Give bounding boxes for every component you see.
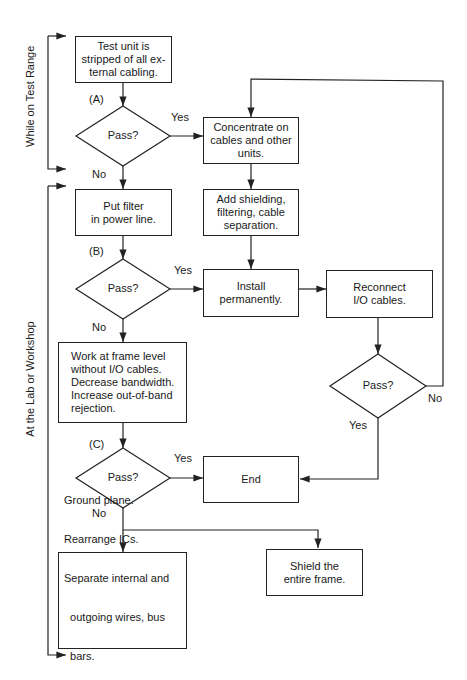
stage-label-c: (C) xyxy=(89,438,104,450)
decision-b-text: Pass? xyxy=(93,282,153,294)
decision-c-text: Pass? xyxy=(93,471,153,483)
edge-label-b-no: No xyxy=(92,321,106,333)
edge-label-io-yes: Yes xyxy=(349,419,367,431)
stage-label-a: (A) xyxy=(89,93,104,105)
decision-a-text: Pass? xyxy=(93,129,153,141)
side-label-test-range: While on Test Range xyxy=(24,47,36,147)
edge-label-b-yes: Yes xyxy=(174,264,192,276)
edge-label-c-no: No xyxy=(92,507,106,519)
stage-label-b: (B) xyxy=(89,245,104,257)
edge-label-c-yes: Yes xyxy=(174,452,192,464)
box-frame-level: Work at frame level without I/O cables. … xyxy=(58,342,187,423)
box-concentrate-cables: Concentrate on cables and other units. xyxy=(203,117,299,164)
side-label-lab: At the Lab or Workshop xyxy=(24,309,36,449)
edge-label-a-yes: Yes xyxy=(171,111,189,123)
box-reconnect-io: Reconnect I/O cables. xyxy=(326,270,433,318)
box-ground-plane: Ground plane. Rearrange ICs. Separate in… xyxy=(58,552,187,649)
box-end: End xyxy=(203,456,299,503)
edge-label-a-no: No xyxy=(92,168,106,180)
box-strip-cabling: Test unit is stripped of all ex- ternal … xyxy=(75,36,172,83)
edge-label-io-no: No xyxy=(428,392,442,404)
box-shield-frame: Shield the entire frame. xyxy=(266,549,363,596)
decision-io-text: Pass? xyxy=(348,379,408,391)
box-install-permanently: Install permanently. xyxy=(203,269,299,317)
box-put-filter: Put filter in power line. xyxy=(75,189,172,236)
box-add-shielding: Add shielding, filtering, cable separati… xyxy=(203,189,299,236)
